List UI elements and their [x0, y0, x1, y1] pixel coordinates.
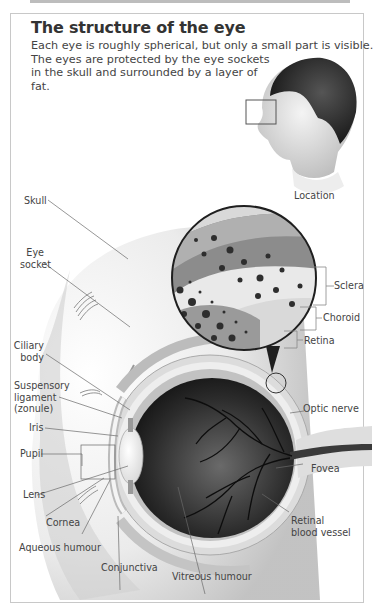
label-suspensory-ligament: Suspensory ligament (zonule): [14, 380, 70, 415]
label-retina: Retina: [304, 335, 335, 347]
label-vitreous-humour: Vitreous humour: [172, 571, 252, 583]
label-line: body: [12, 352, 44, 364]
label-line: ligament: [14, 392, 70, 404]
label-line: Eye: [20, 247, 44, 259]
label-eye-socket: Eye socket: [20, 247, 44, 270]
label-line: Ciliary: [12, 340, 44, 352]
head-profile-image: [246, 58, 357, 194]
label-choroid: Choroid: [323, 312, 360, 324]
label-pupil: Pupil: [20, 448, 43, 460]
label-skull: Skull: [24, 195, 47, 207]
label-optic-nerve: Optic nerve: [303, 403, 359, 415]
location-caption: Location: [294, 190, 335, 202]
label-line: (zonule): [14, 403, 70, 415]
label-line: blood vessel: [291, 527, 351, 539]
label-aqueous-humour: Aqueous humour: [19, 542, 101, 554]
label-conjunctiva: Conjunctiva: [101, 562, 158, 574]
label-retinal-blood-vessel: Retinal blood vessel: [291, 515, 351, 538]
label-line: Suspensory: [14, 380, 70, 392]
label-line: Retinal: [291, 515, 351, 527]
label-iris: Iris: [29, 422, 43, 434]
label-line: socket: [20, 259, 44, 271]
label-lens: Lens: [23, 489, 45, 501]
label-cornea: Cornea: [46, 517, 80, 529]
label-ciliary-body: Ciliary body: [12, 340, 44, 363]
label-sclera: Sclera: [334, 280, 364, 292]
label-fovea: Fovea: [311, 463, 340, 475]
